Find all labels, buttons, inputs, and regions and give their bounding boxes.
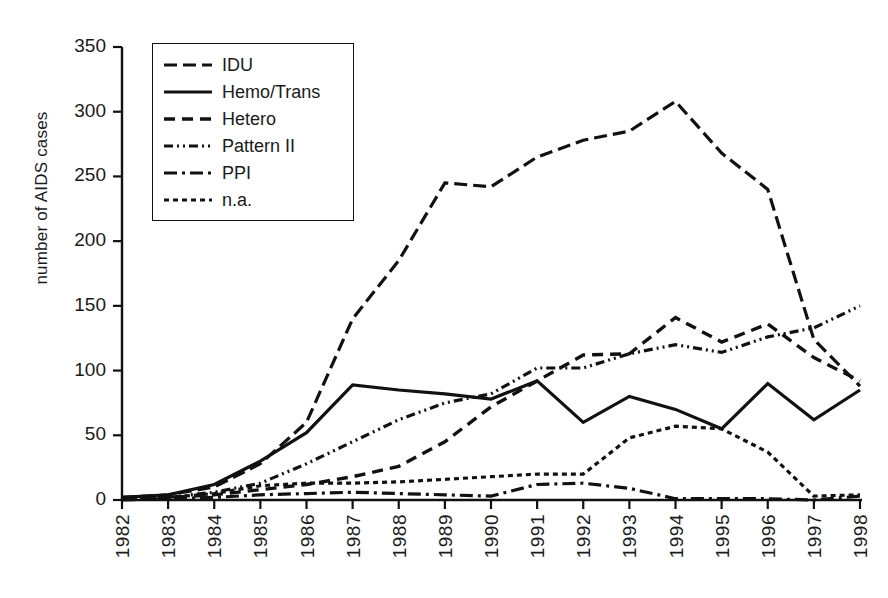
x-tick-label: 1996 bbox=[758, 514, 780, 558]
legend-item-label: Hetero bbox=[222, 110, 276, 128]
y-tick-label: 0 bbox=[46, 488, 106, 510]
x-tick-label: 1983 bbox=[158, 514, 180, 558]
legend-item-label: PPI bbox=[222, 164, 251, 182]
legend-item-n-a[interactable]: n.a. bbox=[163, 187, 252, 213]
series-line-n-a bbox=[122, 426, 860, 498]
x-tick-label: 1989 bbox=[435, 514, 457, 558]
legend-item-pattern-ii[interactable]: Pattern II bbox=[163, 133, 295, 159]
x-tick-label: 1990 bbox=[481, 514, 503, 558]
x-tick-label: 1994 bbox=[666, 514, 688, 558]
legend-line-swatch-icon bbox=[163, 139, 213, 153]
legend-item-label: Pattern II bbox=[222, 137, 295, 155]
x-tick-label: 1995 bbox=[712, 514, 734, 558]
x-tick-label: 1986 bbox=[297, 514, 319, 558]
legend-item-ppi[interactable]: PPI bbox=[163, 160, 251, 186]
x-tick-label: 1991 bbox=[527, 514, 549, 558]
legend-line-swatch-icon bbox=[163, 85, 213, 99]
series-line-hemo-trans bbox=[122, 381, 860, 497]
legend-item-label: IDU bbox=[222, 56, 253, 74]
x-tick-label: 1997 bbox=[804, 514, 826, 558]
x-tick-label: 1987 bbox=[343, 514, 365, 558]
legend-line-swatch-icon bbox=[163, 193, 213, 207]
x-tick-label: 1988 bbox=[389, 514, 411, 558]
x-tick-label: 1998 bbox=[850, 514, 872, 558]
y-tick-label: 150 bbox=[46, 294, 106, 316]
legend: IDUHemo/TransHeteroPattern IIPPIn.a. bbox=[152, 43, 354, 221]
y-tick-label: 100 bbox=[46, 359, 106, 381]
x-tick-label: 1984 bbox=[204, 514, 226, 558]
x-tick-label: 1982 bbox=[112, 514, 134, 558]
x-tick-label: 1993 bbox=[619, 514, 641, 558]
y-tick-label: 50 bbox=[46, 423, 106, 445]
x-tick-label: 1985 bbox=[250, 514, 272, 558]
legend-line-swatch-icon bbox=[163, 112, 213, 126]
legend-item-idu[interactable]: IDU bbox=[163, 52, 253, 78]
legend-line-swatch-icon bbox=[163, 58, 213, 72]
aids-cases-line-chart: number of AIDS cases 0501001502002503003… bbox=[0, 0, 888, 598]
legend-item-label: Hemo/Trans bbox=[222, 83, 320, 101]
x-tick-label: 1992 bbox=[573, 514, 595, 558]
y-tick-label: 300 bbox=[46, 100, 106, 122]
legend-item-label: n.a. bbox=[222, 191, 252, 209]
legend-item-hetero[interactable]: Hetero bbox=[163, 106, 276, 132]
plot-area bbox=[0, 0, 888, 598]
y-tick-label: 350 bbox=[46, 35, 106, 57]
y-tick-label: 200 bbox=[46, 229, 106, 251]
legend-item-hemo-trans[interactable]: Hemo/Trans bbox=[163, 79, 320, 105]
y-tick-label: 250 bbox=[46, 164, 106, 186]
legend-line-swatch-icon bbox=[163, 166, 213, 180]
